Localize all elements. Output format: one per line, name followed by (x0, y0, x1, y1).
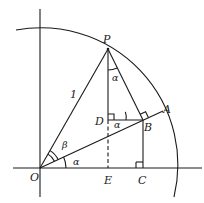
point-P-dot (107, 48, 110, 51)
label-B: B (143, 121, 152, 134)
geometry-diagram: P A B D E C O 1 α β α α (0, 0, 204, 203)
segment-PB (108, 49, 143, 120)
segment-OP (40, 49, 108, 168)
label-radius-1: 1 (70, 88, 77, 101)
label-alpha-P: α (112, 72, 119, 83)
label-C: C (138, 174, 147, 187)
label-alpha-O: α (73, 156, 80, 167)
label-alpha-D: α (114, 119, 121, 130)
angle-arc-alpha-P (108, 68, 117, 70)
label-O: O (30, 171, 39, 184)
angle-arc-alpha-O (64, 157, 66, 168)
label-E: E (103, 174, 112, 187)
angle-arc-beta-O-1 (48, 154, 55, 161)
angle-arc-alpha-D (125, 112, 126, 120)
label-P: P (102, 33, 111, 46)
label-D: D (94, 115, 104, 128)
label-A: A (162, 103, 171, 116)
label-beta-O: β (61, 139, 68, 150)
angle-arc-beta-O-2 (50, 151, 58, 160)
